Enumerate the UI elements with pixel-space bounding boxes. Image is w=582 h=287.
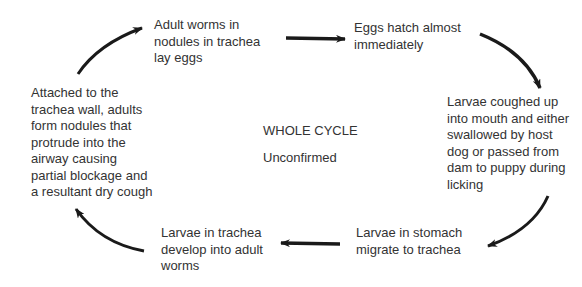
node-eggs-hatch: Eggs hatch almost immediately: [354, 20, 461, 53]
node-adults-form-nodules: Attached to the trachea wall, adults for…: [31, 85, 152, 201]
node-larvae-coughed-up: Larvae coughed up into mouth and either …: [447, 94, 569, 193]
arrow-lay-eggs-to-hatch: [286, 38, 345, 39]
arrow-migrate-to-develop: [281, 243, 340, 244]
center-title: WHOLE CYCLE: [263, 123, 358, 140]
arrow-develop-to-nodules: [76, 209, 144, 251]
node-larvae-migrate: Larvae in stomach migrate to trachea: [356, 225, 462, 258]
life-cycle-diagram: Adult worms in nodules in trachea lay eg…: [0, 0, 582, 287]
node-larvae-develop: Larvae in trachea develop into adult wor…: [161, 225, 263, 275]
node-adult-worms-lay-eggs: Adult worms in nodules in trachea lay eg…: [154, 17, 260, 67]
center-subtitle: Unconfirmed: [263, 150, 337, 167]
arrow-nodules-to-lay-eggs: [78, 28, 142, 74]
arrow-hatch-to-coughed-up: [480, 34, 540, 88]
arrow-coughed-up-to-migrate: [488, 196, 548, 246]
